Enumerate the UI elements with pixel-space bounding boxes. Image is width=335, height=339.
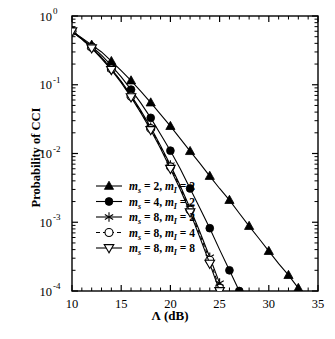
series-marker-open-triangle-down — [215, 288, 225, 296]
y-tick-label: 10-2 — [40, 144, 61, 162]
svg-text:10: 10 — [40, 10, 53, 24]
svg-text:-3: -3 — [53, 212, 61, 222]
series-1 — [68, 27, 243, 295]
svg-text:0: 0 — [53, 6, 58, 16]
legend-entry-2: ms = 8, mI = 2 — [96, 211, 195, 226]
legend-entry-1: ms = 4, mI = 2 — [96, 196, 195, 211]
legend-label: ms = 8, mI = 8 — [129, 242, 195, 257]
cci-probability-plot: 10152025303510-410-310-210-1100ms = 2, m… — [0, 0, 335, 339]
series-marker-filled-circle — [235, 287, 243, 295]
series-4 — [67, 28, 224, 296]
series-marker-filled-triangle-up — [104, 181, 113, 189]
legend-label: ms = 2, mI = 2 — [129, 180, 195, 195]
series-marker-filled-circle — [147, 114, 155, 122]
svg-text:-2: -2 — [53, 144, 61, 154]
series-marker-open-circle — [105, 229, 113, 237]
series-marker-filled-circle — [105, 198, 113, 206]
y-tick-label: 100 — [40, 6, 59, 24]
legend-label: ms = 8, mI = 4 — [129, 227, 195, 242]
x-tick-label: 10 — [66, 297, 79, 311]
legend: ms = 2, mI = 2ms = 4, mI = 2ms = 8, mI =… — [96, 180, 195, 257]
svg-text:-4: -4 — [53, 281, 61, 291]
x-axis-title: Λ (dB) — [90, 308, 250, 324]
legend-entry-4: ms = 8, mI = 8 — [96, 242, 195, 257]
y-tick-label: 10-4 — [40, 281, 61, 299]
x-tick-label: 30 — [263, 297, 276, 311]
svg-text:10: 10 — [40, 147, 53, 161]
svg-text:-1: -1 — [53, 75, 61, 85]
series-marker-filled-circle — [167, 147, 175, 155]
svg-text:10: 10 — [40, 78, 53, 92]
svg-text:10: 10 — [40, 285, 53, 299]
y-tick-label: 10-3 — [40, 212, 61, 230]
series-marker-open-triangle-down — [104, 245, 114, 253]
x-tick-label: 35 — [312, 297, 325, 311]
series-marker-filled-circle — [226, 266, 234, 274]
x-axis-title-text: Λ (dB) — [151, 308, 188, 323]
legend-entry-3: ms = 8, mI = 4 — [96, 227, 195, 242]
legend-label: ms = 8, mI = 2 — [129, 211, 195, 226]
y-tick-label: 10-1 — [40, 75, 61, 93]
legend-entry-0: ms = 2, mI = 2 — [96, 180, 195, 195]
series-marker-filled-circle — [206, 224, 214, 232]
series-layer — [67, 26, 303, 295]
svg-text:10: 10 — [40, 216, 53, 230]
chart-container: Probability of CCI 10152025303510-410-31… — [0, 0, 335, 339]
